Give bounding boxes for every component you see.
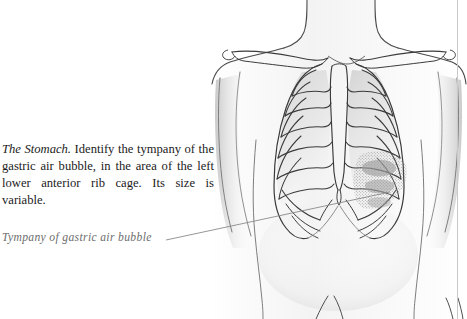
annotation-label: Tympany of gastric air bubble xyxy=(2,231,152,244)
page-margin-rule xyxy=(457,0,458,319)
anatomy-illustration-svg xyxy=(210,0,467,319)
run-in-heading: The Stomach. xyxy=(2,142,71,156)
body-paragraph: The Stomach. Identify the tympany of the… xyxy=(2,141,214,209)
torso-outline xyxy=(210,0,467,319)
textbook-page: The Stomach. Identify the tympany of the… xyxy=(0,0,467,319)
anatomy-illustration xyxy=(210,0,467,319)
